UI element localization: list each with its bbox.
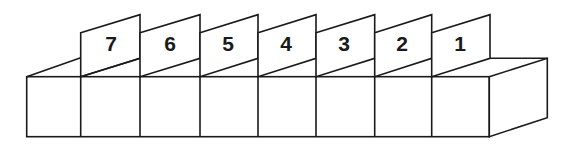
card-label-6: 6 (164, 32, 176, 55)
card-label-1: 1 (454, 32, 466, 55)
box-left-top-edge (27, 58, 81, 77)
card-label-5: 5 (222, 32, 234, 55)
card-box-diagram: 7 6 5 4 3 2 1 (0, 0, 567, 147)
box-side-face (489, 58, 547, 136)
card-label-7: 7 (105, 32, 117, 55)
card-label-2: 2 (396, 32, 408, 55)
card-label-3: 3 (338, 32, 350, 55)
card-label-4: 4 (280, 32, 292, 55)
